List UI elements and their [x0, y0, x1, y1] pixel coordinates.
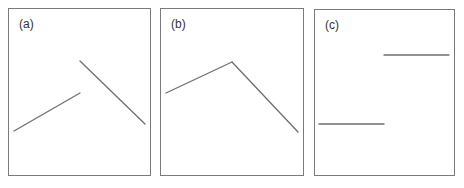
panel-a-label: (a)	[19, 17, 34, 31]
panel-b-label: (b)	[171, 17, 186, 31]
panel-c: (c)	[314, 9, 455, 176]
three-panel-figure: (a) (b) (c)	[0, 0, 464, 188]
panel-a: (a)	[8, 8, 151, 176]
panel-b: (b)	[160, 8, 304, 176]
panel-c-label: (c)	[325, 18, 339, 32]
